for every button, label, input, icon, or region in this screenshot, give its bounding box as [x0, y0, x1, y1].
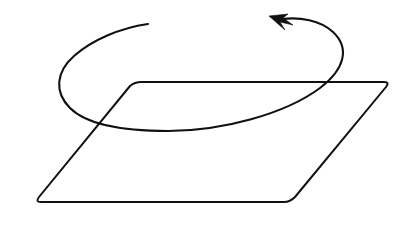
figure-canvas — [0, 0, 408, 236]
rotation-diagram — [0, 0, 408, 236]
canvas-background — [0, 0, 408, 236]
